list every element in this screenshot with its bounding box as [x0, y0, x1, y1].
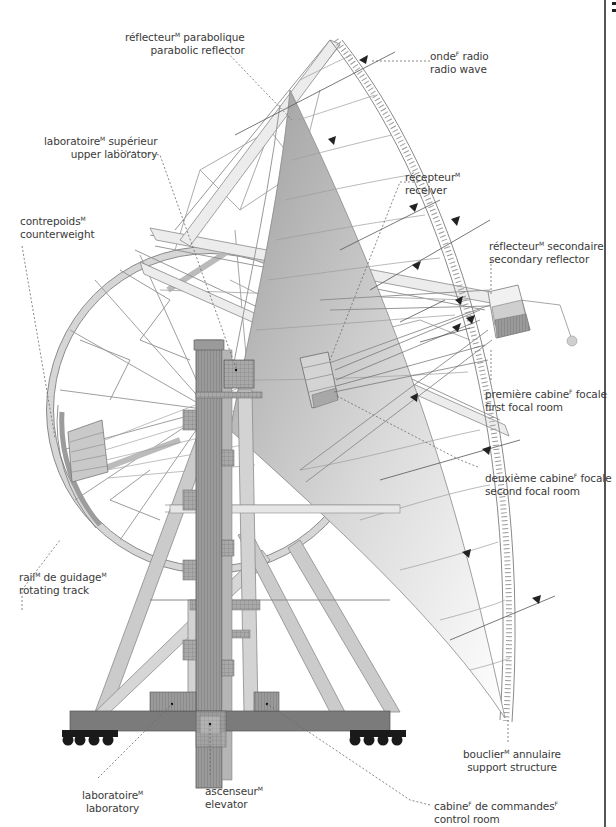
label-elevator: ascenseurM elevator	[205, 782, 263, 811]
label-upper-laboratory: laboratoireM supérieur upper laboratory	[44, 132, 157, 161]
label-control-room: cabineF de commandesF control room	[434, 797, 558, 826]
label-secondary-reflector: réflecteurM secondaire secondary reflect…	[489, 237, 604, 266]
label-first-focal-room: première cabineF focale first focal room	[485, 385, 607, 414]
label-laboratory: laboratoireM laboratory	[82, 786, 143, 815]
upper-laboratory-box	[224, 360, 254, 388]
counterweight-block	[68, 420, 108, 482]
corner-mark	[612, 9, 616, 12]
label-radio-wave: ondeF radio radio wave	[430, 47, 489, 76]
wheel-bogie-right	[350, 730, 407, 746]
label-rotating-track: railM de guidageM rotating track	[19, 568, 107, 597]
label-parabolic-reflector: réflecteurM parabolique parabolic reflec…	[125, 28, 245, 57]
label-counterweight: contrepoidsM counterweight	[20, 212, 95, 241]
label-second-focal-room: deuxième cabineF focale second focal roo…	[485, 469, 612, 498]
label-support-structure: bouclierM annulaire support structure	[463, 745, 561, 774]
wheel-bogie-left	[62, 730, 118, 746]
corner-mark	[612, 2, 616, 5]
label-receiver: récepteurM receiver	[405, 168, 460, 197]
